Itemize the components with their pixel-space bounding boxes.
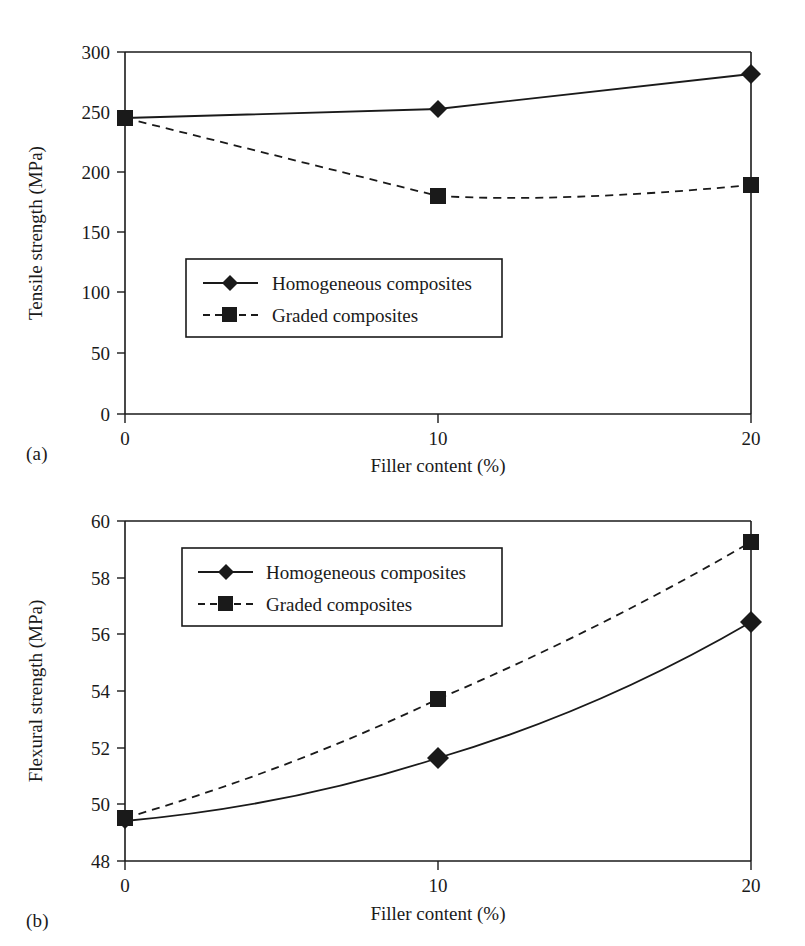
data-point-marker — [741, 64, 761, 84]
y-tick-label: 52 — [91, 738, 110, 759]
x-tick-label: 10 — [429, 428, 448, 449]
data-point-marker — [427, 747, 449, 769]
y-tick-label: 150 — [82, 222, 111, 243]
data-point-marker — [117, 810, 133, 826]
data-point-marker — [429, 100, 447, 118]
series-homogeneous-composites-tensile — [117, 64, 761, 126]
x-axis-ticks-flexural — [125, 861, 751, 870]
y-tick-label: 50 — [91, 343, 110, 364]
series-graded-composites-tensile — [117, 110, 759, 204]
data-point-marker — [743, 177, 759, 193]
x-axis-ticks-tensile — [125, 414, 751, 423]
y-tick-label: 56 — [91, 624, 110, 645]
square-marker-icon — [218, 596, 233, 611]
chart-panel-flexural: 60 58 56 54 52 50 48 0 10 20 Filler cont… — [0, 470, 805, 946]
y-tick-label: 250 — [82, 102, 111, 123]
x-tick-label: 20 — [742, 428, 761, 449]
y-axis-title: Flexural strength (MPa) — [25, 600, 47, 783]
y-tick-label: 0 — [101, 404, 111, 425]
chart-panel-tensile: 300 250 200 150 100 50 0 0 10 20 Filler … — [0, 0, 805, 480]
legend-label-graded: Graded composites — [266, 594, 412, 615]
series-homogeneous-composites-flexural — [117, 611, 762, 829]
y-axis-ticks-tensile — [117, 52, 125, 414]
x-tick-label: 10 — [429, 875, 448, 896]
data-point-marker — [430, 691, 446, 707]
flexural-strength-chart: 60 58 56 54 52 50 48 0 10 20 Filler cont… — [0, 470, 805, 946]
y-tick-label: 48 — [91, 851, 110, 872]
data-point-marker — [743, 534, 759, 550]
panel-label-b: (b) — [26, 910, 49, 932]
data-point-marker — [117, 110, 133, 126]
y-tick-label: 100 — [82, 282, 111, 303]
y-tick-label: 300 — [82, 42, 111, 63]
data-point-marker — [740, 611, 762, 633]
legend-label-homogeneous: Homogeneous composites — [272, 273, 472, 294]
y-tick-label: 58 — [91, 568, 110, 589]
square-marker-icon — [222, 307, 237, 322]
legend-label-graded: Graded composites — [272, 305, 418, 326]
y-tick-label: 60 — [91, 511, 110, 532]
panel-label-a: (a) — [26, 443, 48, 465]
x-tick-label: 20 — [742, 875, 761, 896]
data-point-marker — [430, 188, 446, 204]
tensile-strength-chart: 300 250 200 150 100 50 0 0 10 20 Filler … — [0, 0, 805, 480]
legend-label-homogeneous: Homogeneous composites — [266, 562, 466, 583]
x-tick-label: 0 — [120, 875, 130, 896]
legend-tensile: Homogeneous composites Graded composites — [186, 259, 502, 337]
y-tick-label: 54 — [91, 681, 111, 702]
y-tick-label: 50 — [91, 794, 110, 815]
y-tick-label: 200 — [82, 162, 111, 183]
y-axis-title: Tensile strength (MPa) — [25, 146, 47, 320]
legend-flexural: Homogeneous composites Graded composites — [182, 548, 502, 626]
x-axis-title: Filler content (%) — [370, 903, 505, 925]
x-tick-label: 0 — [120, 428, 130, 449]
